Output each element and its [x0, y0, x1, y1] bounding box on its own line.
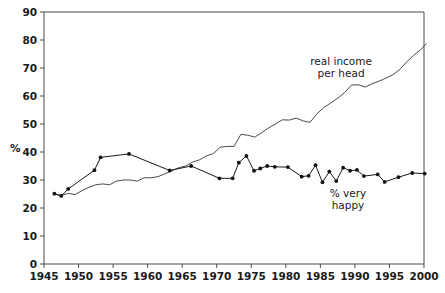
data-point-marker: [314, 163, 318, 167]
data-point-marker: [189, 164, 193, 168]
line-chart: 0102030405060708090 19451950195519601965…: [0, 0, 445, 293]
data-point-marker: [383, 180, 387, 184]
data-point-marker: [237, 161, 241, 165]
data-point-marker: [321, 180, 325, 184]
x-tick-label: 1965: [168, 270, 197, 282]
data-point-marker: [93, 168, 97, 172]
data-point-marker: [66, 187, 70, 191]
data-point-marker: [218, 176, 222, 180]
annotation-2: % veryhappy: [330, 187, 367, 211]
y-tick-label: 60: [22, 90, 37, 102]
axis-frame: [44, 12, 424, 264]
x-axis-tick-marks: [44, 264, 424, 268]
x-tick-label: 2000: [409, 270, 438, 282]
y-tick-label: 70: [22, 62, 37, 74]
y-tick-label: 90: [22, 6, 37, 18]
x-tick-label: 1980: [271, 270, 300, 282]
data-point-marker: [258, 167, 262, 171]
data-point-marker: [252, 169, 256, 173]
annotation-line-1: % very: [330, 187, 367, 199]
data-point-marker: [376, 173, 380, 177]
y-tick-label: 80: [22, 34, 37, 46]
data-point-marker: [327, 170, 331, 174]
y-tick-label: 10: [22, 230, 37, 242]
data-point-marker: [99, 155, 103, 159]
data-point-marker: [127, 152, 131, 156]
data-point-marker: [168, 169, 172, 173]
annotation-line-2: happy: [332, 199, 365, 211]
x-tick-label: 1950: [64, 270, 93, 282]
data-point-marker: [59, 194, 63, 198]
y-axis-tick-marks: [40, 12, 44, 264]
data-point-marker: [355, 168, 359, 172]
data-point-marker: [410, 171, 414, 175]
data-point-marker: [341, 166, 345, 170]
x-tick-label: 1970: [202, 270, 231, 282]
x-tick-label: 1985: [306, 270, 335, 282]
data-point-marker: [245, 154, 249, 158]
data-point-marker: [334, 179, 338, 183]
annotation-line-1: real income: [310, 55, 372, 67]
plot-frame: [44, 12, 424, 264]
data-point-marker: [273, 165, 277, 169]
x-axis-tick-labels: 1945195019551960196519701975198019851990…: [29, 270, 438, 282]
y-tick-label: 50: [22, 118, 37, 130]
data-point-marker: [348, 169, 352, 173]
series-line: [54, 154, 424, 196]
data-point-marker: [362, 174, 366, 178]
chart-container: 0102030405060708090 19451950195519601965…: [0, 0, 445, 293]
annotation-line-2: per head: [318, 67, 365, 79]
y-axis-tick-labels: 0102030405060708090: [22, 6, 37, 270]
series-annotations: real incomeper head% veryhappy: [310, 55, 372, 211]
annotation-1: real incomeper head: [310, 55, 372, 79]
x-tick-label: 1945: [29, 270, 58, 282]
data-point-marker: [231, 176, 235, 180]
x-tick-label: 1995: [375, 270, 404, 282]
data-point-marker: [52, 192, 56, 196]
data-point-marker: [397, 175, 401, 179]
y-tick-label: 30: [22, 174, 37, 186]
y-tick-label: 20: [22, 202, 37, 214]
data-point-marker: [286, 165, 290, 169]
data-point-marker: [307, 174, 311, 178]
data-point-marker: [265, 164, 269, 168]
data-point-marker: [423, 172, 427, 176]
x-tick-label: 1955: [98, 270, 127, 282]
data-point-marker: [300, 175, 304, 179]
y-axis-title: %: [10, 142, 21, 154]
y-tick-label: 0: [30, 258, 37, 270]
x-tick-label: 1990: [340, 270, 369, 282]
x-tick-label: 1975: [237, 270, 266, 282]
x-tick-label: 1960: [133, 270, 162, 282]
series-2: [52, 152, 426, 198]
y-tick-label: 40: [22, 146, 37, 158]
